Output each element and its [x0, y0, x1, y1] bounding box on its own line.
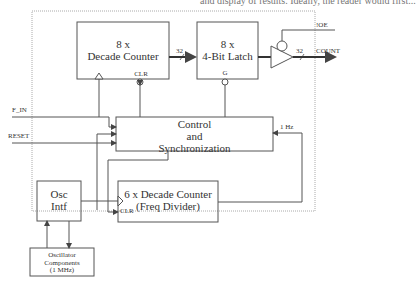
latch-label: 8 x 4-Bit Latch [197, 38, 258, 62]
caption-cut-text: and display of results. Ideally, the rea… [200, 0, 416, 6]
control-line1: Control [116, 118, 273, 130]
latch-line2: 4-Bit Latch [197, 50, 258, 62]
bus-width-label-2: 32 [296, 48, 303, 56]
decade-counter-line2: Decade Counter [77, 50, 169, 62]
control-line2: and [116, 130, 273, 142]
bus-width-label-1: 32 [176, 48, 183, 56]
latch-g-pin: G [221, 70, 229, 78]
osc-intf-label: Osc Intf [37, 188, 81, 212]
osc-components-label: Oscillator Components (1 MHz) [30, 252, 94, 275]
count-signal-label: COUNT [316, 48, 340, 56]
osc-intf-line1: Osc [37, 188, 81, 200]
oe-signal-label: !OE [316, 22, 328, 30]
control-line3: Synchronization [116, 142, 273, 154]
divider-clr-pin: CLR [120, 208, 134, 216]
reset-signal-label: RESET [8, 133, 29, 141]
counter-clr-pin: CLR [133, 71, 149, 79]
freq-divider-line1: 6 x Decade Counter [118, 188, 218, 200]
decade-counter-line1: 8 x [77, 38, 169, 50]
osc-intf-line2: Intf [37, 200, 81, 212]
one-hz-label: 1 Hz [280, 124, 293, 132]
osc-components-line3: (1 MHz) [30, 267, 94, 275]
control-label: Control and Synchronization [116, 118, 273, 154]
f-in-signal-label: F_IN [12, 107, 27, 115]
decade-counter-label: 8 x Decade Counter [77, 38, 169, 62]
latch-line1: 8 x [197, 38, 258, 50]
